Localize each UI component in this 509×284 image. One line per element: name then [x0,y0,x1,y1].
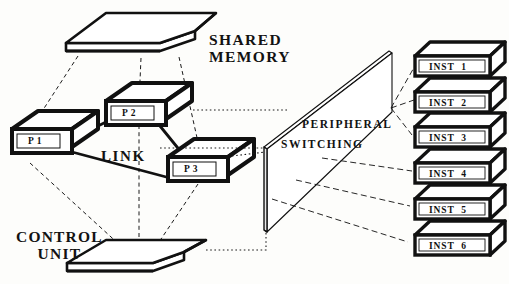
control-unit-label-line1: CONTROL [16,228,103,245]
shared-memory-label-line2: MEMORY [209,48,291,65]
processor-box-p2 [106,83,192,125]
shared-memory-label: SHAREDMEMORY [209,31,291,66]
shared-memory-label-line1: SHARED [209,31,282,48]
processor-box-p1 [12,111,98,153]
link-label: LINK [101,148,146,165]
processor-box-p3 [168,139,254,181]
peripheral-label: PERIPHERAL [302,118,392,131]
architecture-diagram: SHAREDMEMORY CONTROLUNIT LINK PERIPHERAL… [0,0,509,284]
processor-label-p1: P 1 [28,136,42,146]
instrument-label-1: INST 1 [429,62,467,72]
processor-label-p3: P 3 [184,164,198,174]
control-unit-label: CONTROLUNIT [16,228,103,263]
instrument-stack [415,42,505,255]
instrument-label-3: INST 3 [429,133,467,143]
processor-label-p2: P 2 [122,108,136,118]
instrument-label-2: INST 2 [429,98,467,108]
shared-memory-plate [66,13,216,51]
instrument-label-4: INST 4 [429,169,467,179]
instrument-label-6: INST 6 [429,241,467,251]
control-unit-label-line2: UNIT [38,245,82,262]
instrument-label-5: INST 5 [429,205,467,215]
switching-label: SWITCHING [281,138,364,151]
